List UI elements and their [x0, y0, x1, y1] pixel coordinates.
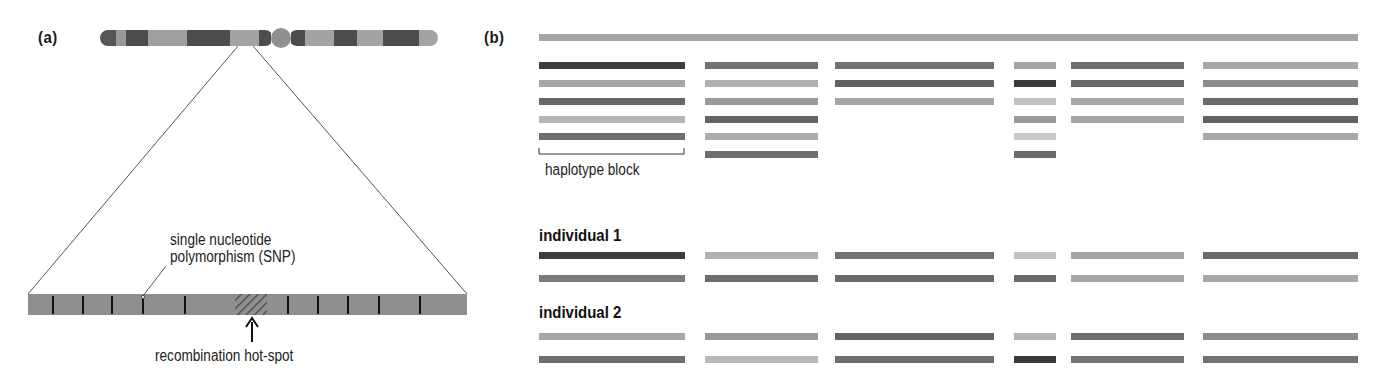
hotspot-label: recombination hot-spot [155, 346, 293, 365]
individual-1-haplotype-bar [539, 252, 685, 259]
haplotype-variant-bar [705, 116, 818, 123]
individual-1-haplotype-bar [835, 252, 994, 259]
haplotype-variant-bar [539, 62, 685, 69]
individual-2-haplotype-bar [835, 333, 994, 340]
individual-1-haplotype-bar [1014, 252, 1056, 259]
haplotype-variant-bar [1014, 116, 1056, 123]
haplotype-variant-bar [1203, 98, 1358, 105]
individual-2-haplotype-bar [1014, 356, 1056, 363]
individual-2-haplotype-bar [705, 333, 818, 340]
individual-1-haplotype-bar [1203, 252, 1358, 259]
haplotype-variant-bar [1071, 116, 1184, 123]
haplotype-variant-bar [835, 80, 994, 87]
haplotype-variant-bar [539, 98, 685, 105]
haplotype-variant-bar [1014, 80, 1056, 87]
individual-2-haplotype-bar [539, 333, 685, 340]
haplotype-variant-bar [1071, 80, 1184, 87]
individual-1-haplotype-bar [1014, 275, 1056, 282]
individual-1-haplotype-bar [705, 252, 818, 259]
haplotype-block-bracket [539, 148, 684, 154]
individual-2-label: individual 2 [539, 303, 621, 323]
haplotype-variant-bar [1014, 62, 1056, 69]
haplotype-variant-bar [705, 151, 818, 158]
panel-a-diagram [0, 0, 1383, 387]
haplotype-variant-bar [705, 98, 818, 105]
snp-pointer-dot [141, 295, 144, 298]
haplotype-variant-bar [705, 62, 818, 69]
individual-2-haplotype-bar [1014, 333, 1056, 340]
haplotype-block-label: haplotype block [545, 160, 640, 179]
individual-2-haplotype-bar [539, 356, 685, 363]
recombination-hotspot [235, 294, 267, 315]
centromere [271, 28, 291, 48]
haplotype-variant-bar [705, 133, 818, 140]
individual-1-haplotype-bar [1203, 275, 1358, 282]
haplotype-variant-bar [539, 133, 685, 140]
individual-2-haplotype-bar [705, 356, 818, 363]
panel-b-label: (b) [484, 28, 504, 48]
individual-1-haplotype-bar [539, 275, 685, 282]
individual-2-haplotype-bar [1203, 333, 1358, 340]
individual-2-haplotype-bar [835, 356, 994, 363]
haplotype-variant-bar [1014, 98, 1056, 105]
individual-1-label: individual 1 [539, 226, 621, 246]
haplotype-variant-bar [1071, 62, 1184, 69]
snp-label-line2: polymorphism (SNP) [170, 247, 295, 266]
chromosome [100, 30, 438, 46]
individual-2-haplotype-bar [1071, 356, 1184, 363]
haplotype-variant-bar [1071, 98, 1184, 105]
snp-leader-line [143, 266, 166, 296]
haplotype-variant-bar [1014, 151, 1056, 158]
haplotype-variant-bar [539, 116, 685, 123]
individual-2-haplotype-bar [1071, 333, 1184, 340]
haplotype-variant-bar [1014, 133, 1056, 140]
haplotype-variant-bar [1203, 116, 1358, 123]
haplotype-variant-bar [835, 98, 994, 105]
individual-1-haplotype-bar [1071, 252, 1184, 259]
haplotype-variant-bar [1203, 62, 1358, 69]
individual-1-haplotype-bar [835, 275, 994, 282]
reference-chromosome-bar [539, 34, 1358, 41]
haplotype-variant-bar [1203, 133, 1358, 140]
haplotype-variant-bar [539, 80, 685, 87]
individual-2-haplotype-bar [1203, 356, 1358, 363]
individual-1-haplotype-bar [1071, 275, 1184, 282]
haplotype-variant-bar [705, 80, 818, 87]
haplotype-variant-bar [1203, 80, 1358, 87]
haplotype-variant-bar [835, 62, 994, 69]
individual-1-haplotype-bar [705, 275, 818, 282]
